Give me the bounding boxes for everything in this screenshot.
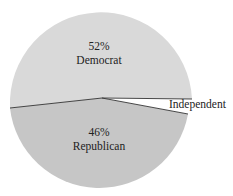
label-republican-name: Republican bbox=[64, 140, 134, 153]
label-democrat-name: Democrat bbox=[69, 54, 129, 67]
label-independent-name: Independent bbox=[169, 98, 226, 111]
label-republican-percent: 46% bbox=[79, 126, 119, 139]
label-democrat-percent: 52% bbox=[79, 40, 119, 53]
